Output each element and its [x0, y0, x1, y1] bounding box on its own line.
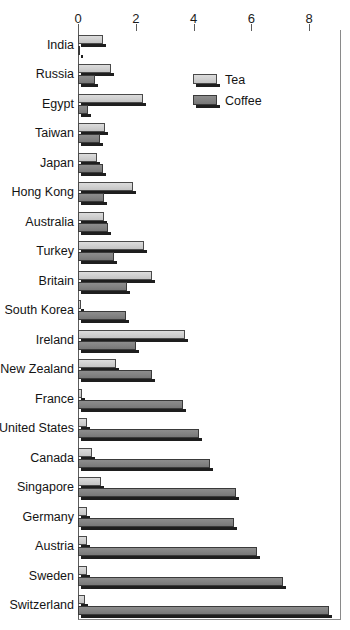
bar-shadow — [81, 232, 111, 235]
bar-face — [78, 311, 126, 320]
bar-face — [78, 448, 92, 457]
x-axis-tick — [78, 24, 79, 31]
x-axis-tick — [194, 24, 195, 31]
bar-coffee[interactable] — [78, 547, 257, 556]
bar-coffee[interactable] — [78, 518, 234, 527]
bar-shadow — [81, 438, 202, 441]
bar-tea[interactable] — [78, 330, 185, 339]
bar-face — [78, 46, 80, 55]
bar-coffee[interactable] — [78, 164, 103, 173]
bar-tea[interactable] — [78, 566, 87, 575]
category-label: Russia — [0, 68, 74, 81]
bar-coffee[interactable] — [78, 134, 100, 143]
bar-coffee[interactable] — [78, 606, 329, 615]
legend-label-tea: Tea — [225, 72, 245, 89]
category-label: Austria — [0, 540, 74, 553]
bar-row: Japan — [0, 148, 350, 178]
bar-coffee[interactable] — [78, 105, 88, 114]
bar-tea[interactable] — [78, 418, 87, 427]
bar-row: Britain — [0, 266, 350, 296]
bar-face — [78, 400, 183, 409]
category-label: Canada — [0, 452, 74, 465]
bar-face — [78, 518, 234, 527]
bar-face — [78, 595, 85, 604]
bar-shadow — [81, 261, 117, 264]
bar-face — [78, 271, 152, 280]
x-axis-tick — [136, 24, 137, 31]
bar-tea[interactable] — [78, 212, 104, 221]
category-label: Taiwan — [0, 127, 74, 140]
bar-shadow — [81, 291, 130, 294]
bar-row: France — [0, 384, 350, 414]
bar-coffee[interactable] — [78, 75, 95, 84]
bar-tea[interactable] — [78, 507, 87, 516]
bar-coffee[interactable] — [78, 311, 126, 320]
bar-tea[interactable] — [78, 64, 111, 73]
bar-face — [78, 193, 104, 202]
bar-shadow — [81, 497, 239, 500]
bar-tea[interactable] — [78, 595, 85, 604]
bar-face — [78, 212, 104, 221]
bar-shadow — [81, 556, 260, 559]
bar-row: Russia — [0, 60, 350, 90]
bar-shadow — [81, 143, 103, 146]
bar-face — [78, 507, 87, 516]
bar-face — [78, 389, 82, 398]
bar-coffee[interactable] — [78, 223, 108, 232]
category-label: Singapore — [0, 481, 74, 494]
bar-rows: IndiaRussiaEgyptTaiwanJapanHong KongAust… — [0, 30, 350, 620]
bar-tea[interactable] — [78, 123, 105, 132]
beverage-consumption-chart: 02468 IndiaRussiaEgyptTaiwanJapanHong Ko… — [0, 0, 350, 630]
bar-tea[interactable] — [78, 389, 82, 398]
bar-coffee[interactable] — [78, 577, 283, 586]
bar-coffee[interactable] — [78, 459, 210, 468]
bar-row: Taiwan — [0, 119, 350, 149]
bar-coffee[interactable] — [78, 488, 236, 497]
category-label: Hong Kong — [0, 186, 74, 199]
bar-shadow — [81, 173, 106, 176]
bar-face — [78, 252, 114, 261]
bar-tea[interactable] — [78, 241, 144, 250]
bar-tea[interactable] — [78, 153, 97, 162]
bar-coffee[interactable] — [78, 400, 183, 409]
bar-tea[interactable] — [78, 448, 92, 457]
bar-row: Egypt — [0, 89, 350, 119]
category-label: Britain — [0, 275, 74, 288]
bar-tea[interactable] — [78, 94, 143, 103]
bar-shadow — [81, 527, 237, 530]
x-axis-tick — [251, 24, 252, 31]
bar-face — [78, 536, 87, 545]
bar-face — [78, 459, 210, 468]
bar-row: Australia — [0, 207, 350, 237]
bar-coffee[interactable] — [78, 429, 199, 438]
category-label: Switzerland — [0, 599, 74, 612]
bar-row: India — [0, 30, 350, 60]
bar-face — [78, 134, 100, 143]
bar-tea[interactable] — [78, 477, 101, 486]
bar-row: Ireland — [0, 325, 350, 355]
bar-face — [78, 94, 143, 103]
bar-face — [78, 606, 329, 615]
bar-tea[interactable] — [78, 359, 116, 368]
category-label: Sweden — [0, 570, 74, 583]
bar-tea[interactable] — [78, 182, 133, 191]
chart-title — [0, 0, 350, 2]
bar-tea[interactable] — [78, 300, 81, 309]
bar-row: Singapore — [0, 473, 350, 503]
bar-row: Canada — [0, 443, 350, 473]
bar-shadow — [81, 468, 213, 471]
bar-coffee[interactable] — [78, 46, 80, 55]
bar-face — [78, 547, 257, 556]
bar-face — [78, 241, 144, 250]
bar-coffee[interactable] — [78, 341, 136, 350]
bar-tea[interactable] — [78, 35, 103, 44]
bar-coffee[interactable] — [78, 252, 114, 261]
bar-coffee[interactable] — [78, 370, 152, 379]
bar-coffee[interactable] — [78, 282, 127, 291]
bar-tea[interactable] — [78, 271, 152, 280]
bar-tea[interactable] — [78, 536, 87, 545]
legend-swatch-shadow — [196, 84, 220, 87]
bar-face — [78, 300, 81, 309]
category-label: Egypt — [0, 98, 74, 111]
bar-coffee[interactable] — [78, 193, 104, 202]
